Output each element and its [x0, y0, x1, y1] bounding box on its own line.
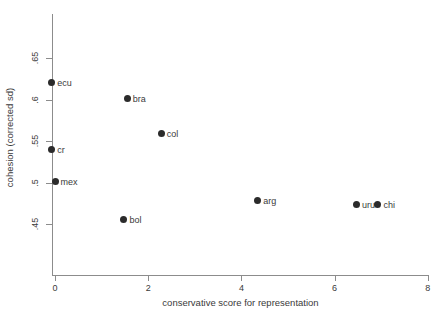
- y-tick-label: .45: [28, 217, 42, 231]
- data-point-label: bra: [133, 94, 146, 104]
- data-point-marker: [120, 216, 127, 223]
- data-point-label: mex: [61, 177, 78, 187]
- y-tick-mark: [46, 141, 52, 142]
- y-tick-mark: [46, 100, 52, 101]
- y-tick-label: .55: [28, 134, 42, 148]
- data-point-marker: [374, 201, 381, 208]
- y-axis-line: [52, 14, 53, 275]
- data-point-marker: [124, 95, 131, 102]
- x-tick-label: 2: [146, 283, 151, 293]
- data-point-label: bol: [129, 215, 141, 225]
- data-point-marker: [158, 130, 165, 137]
- y-axis-title-wrapper: cohesion (corrected sd): [2, 0, 18, 275]
- y-tick-label: .5: [28, 176, 42, 190]
- x-axis-title: conservative score for representation: [52, 297, 429, 308]
- x-tick-label: 0: [52, 283, 57, 293]
- data-point-marker: [353, 201, 360, 208]
- x-tick-label: 8: [425, 283, 430, 293]
- data-point-marker: [48, 79, 55, 86]
- y-tick-mark: [46, 58, 52, 59]
- data-point-marker: [52, 178, 59, 185]
- y-tick-mark: [46, 224, 52, 225]
- data-point-label: chi: [383, 200, 395, 210]
- y-tick-label: .65: [28, 51, 42, 65]
- y-tick-mark: [46, 183, 52, 184]
- x-tick-mark: [428, 275, 429, 281]
- data-point-marker: [48, 146, 55, 153]
- data-point-marker: [254, 197, 261, 204]
- x-tick-mark: [241, 275, 242, 281]
- data-point-label: uru: [362, 200, 375, 210]
- x-tick-mark: [55, 275, 56, 281]
- y-tick-label: .6: [28, 93, 42, 107]
- x-tick-label: 4: [239, 283, 244, 293]
- scatter-plot: .65.6.55.5.45 02468 ecubracolcrmexbolarg…: [0, 0, 440, 317]
- x-tick-mark: [148, 275, 149, 281]
- x-tick-label: 6: [332, 283, 337, 293]
- data-point-label: arg: [263, 196, 276, 206]
- x-tick-mark: [335, 275, 336, 281]
- y-axis-title: cohesion (corrected sd): [5, 88, 16, 187]
- data-point-label: cr: [57, 145, 65, 155]
- data-point-label: ecu: [57, 78, 72, 88]
- data-point-label: col: [167, 129, 179, 139]
